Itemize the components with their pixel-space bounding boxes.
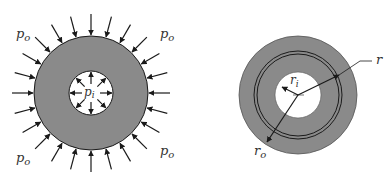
label-po-bottom-right: po [160,143,174,160]
outer-pressure-arrow [147,108,167,113]
outer-pressure-arrow [141,122,159,133]
label-po-top-left: po [16,26,30,43]
outer-pressure-arrow [120,25,131,43]
outer-pressure-arrow [132,134,147,149]
outer-pressure-arrow [52,143,63,161]
outer-pressure-arrow [52,25,63,43]
outer-pressure-arrow [141,54,159,65]
outer-pressure-arrow [23,122,41,133]
outer-pressure-arrow [35,134,50,149]
outer-pressure-arrow [15,73,35,78]
outer-pressure-arrow [35,37,50,52]
outer-pressure-arrow [15,108,35,113]
outer-pressure-arrow [106,17,111,37]
outer-pressure-arrow [71,17,76,37]
outer-pressure-arrow [120,143,131,161]
label-po-bottom-left: po [16,150,30,167]
label-ro: ro [254,143,266,160]
left-figure: po po po po pi [12,14,174,172]
outer-pressure-arrow [106,149,111,169]
diagram-canvas: po po po po pi r ri ro [0,0,391,184]
label-r: r [376,52,383,67]
outer-pressure-arrow [23,54,41,65]
right-figure: r ri ro [239,36,383,160]
outer-pressure-arrow [132,37,147,52]
outer-pressure-arrow [71,149,76,169]
outer-pressure-arrow [147,73,167,78]
label-po-top-right: po [160,26,174,43]
